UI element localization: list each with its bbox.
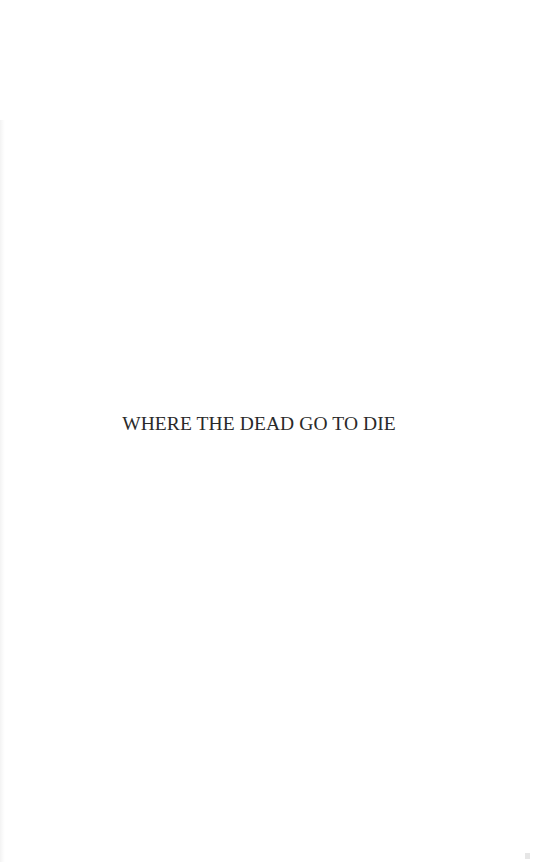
page-corner-mark [525, 853, 530, 859]
page-scan-edge [0, 120, 5, 862]
book-half-title: WHERE THE DEAD GO TO DIE [0, 413, 533, 435]
